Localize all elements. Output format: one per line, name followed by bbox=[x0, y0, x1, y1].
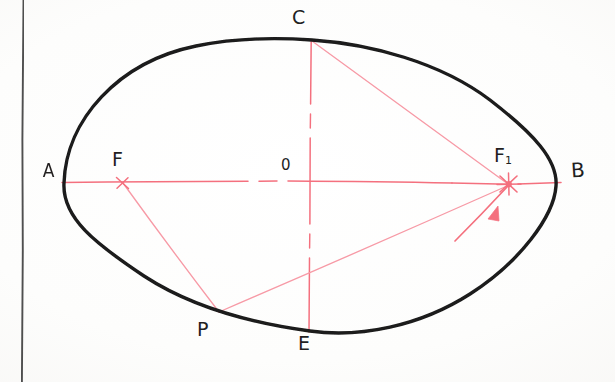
minor-axis-line bbox=[309, 40, 311, 332]
label-center-o: 0 bbox=[281, 158, 291, 173]
label-focus-f1-base: F bbox=[494, 144, 505, 166]
focus-left-marker bbox=[117, 178, 129, 189]
label-focus-f1-subscript: 1 bbox=[505, 154, 512, 167]
construction-lines bbox=[62, 40, 561, 332]
segment-p-f1 bbox=[219, 186, 507, 312]
label-focus-f: F bbox=[112, 150, 123, 169]
label-covertex-e: E bbox=[298, 334, 310, 353]
scanned-page: A B C E 0 F F1 P bbox=[0, 0, 615, 382]
label-focus-f1: F1 bbox=[494, 146, 512, 165]
label-vertex-a: A bbox=[43, 161, 54, 180]
focus-right-marker bbox=[497, 173, 521, 195]
margin-rule bbox=[22, 0, 24, 382]
label-point-p: P bbox=[197, 320, 208, 339]
segment-c-f1 bbox=[312, 41, 508, 184]
major-axis-line bbox=[62, 181, 561, 184]
label-vertex-b: B bbox=[570, 160, 585, 181]
incoming-ray-arrow bbox=[455, 187, 507, 241]
ellipse-diagram bbox=[0, 0, 615, 382]
label-covertex-c: C bbox=[292, 8, 305, 27]
